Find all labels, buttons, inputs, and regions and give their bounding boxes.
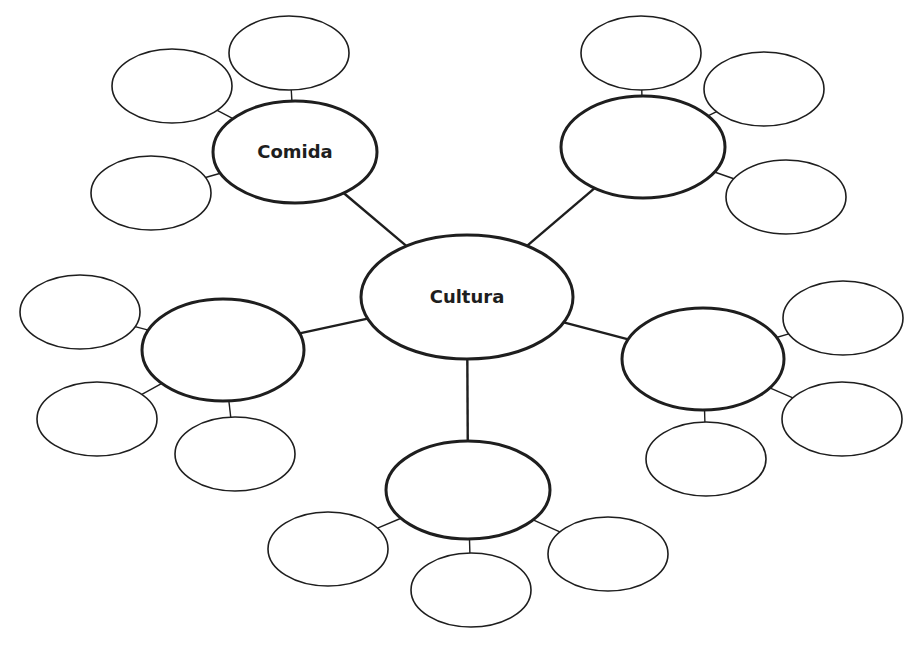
leaf-node[interactable] (175, 417, 295, 491)
leaf-connector-line (776, 334, 788, 338)
leaf-connector-line (378, 518, 401, 528)
leaf-node[interactable] (20, 275, 140, 349)
branch-node[interactable] (142, 299, 304, 401)
leaf-node[interactable] (112, 49, 232, 123)
leaf-ellipse[interactable] (726, 160, 846, 234)
center-label: Cultura (430, 286, 505, 307)
leaf-node[interactable] (548, 517, 668, 591)
branch-label: Comida (257, 141, 333, 162)
branch-node[interactable] (622, 308, 784, 410)
leaf-node[interactable] (704, 52, 824, 126)
leaf-ellipse[interactable] (411, 553, 531, 627)
leaf-node[interactable] (782, 382, 902, 456)
leaf-ellipse[interactable] (268, 512, 388, 586)
leaf-connector-line (135, 327, 148, 331)
leaf-node[interactable] (581, 16, 701, 90)
mind-map-diagram: Comida Cultura (0, 0, 917, 649)
leaf-ellipse[interactable] (175, 417, 295, 491)
leaf-node[interactable] (646, 422, 766, 496)
connector-line (344, 193, 407, 246)
leaf-node[interactable] (726, 160, 846, 234)
connector-line (300, 319, 368, 334)
branch-node[interactable] (561, 96, 725, 198)
leaf-node[interactable] (37, 382, 157, 456)
leaf-ellipse[interactable] (783, 281, 903, 355)
leaf-connector-line (205, 173, 220, 177)
leaf-ellipse[interactable] (229, 16, 349, 90)
leaf-node[interactable] (783, 281, 903, 355)
leaf-ellipse[interactable] (704, 52, 824, 126)
branch-ellipse[interactable] (622, 308, 784, 410)
leaf-ellipse[interactable] (112, 49, 232, 123)
leaf-node[interactable] (411, 553, 531, 627)
connector-line (527, 188, 595, 246)
leaf-connector-line (714, 172, 733, 179)
leaf-ellipse[interactable] (548, 517, 668, 591)
leaf-connector-line (229, 401, 231, 417)
leaf-ellipse[interactable] (37, 382, 157, 456)
leaf-connector-line (217, 110, 233, 118)
branch-ellipse[interactable] (561, 96, 725, 198)
leaf-connector-line (291, 90, 292, 101)
leaf-node[interactable] (91, 156, 211, 230)
leaf-connector-line (142, 383, 162, 394)
leaf-node[interactable] (268, 512, 388, 586)
branch-ellipse[interactable] (142, 299, 304, 401)
leaf-ellipse[interactable] (581, 16, 701, 90)
leaf-connector-line (533, 520, 560, 532)
branch-node-comida[interactable]: Comida (213, 101, 377, 203)
leaf-ellipse[interactable] (646, 422, 766, 496)
leaf-connector-line (770, 388, 793, 398)
branch-ellipse[interactable] (386, 441, 550, 539)
connector-line (564, 322, 629, 339)
branch-node[interactable] (386, 441, 550, 539)
center-node: Cultura (361, 235, 573, 359)
leaf-ellipse[interactable] (20, 275, 140, 349)
leaf-node[interactable] (229, 16, 349, 90)
leaf-ellipse[interactable] (91, 156, 211, 230)
leaf-ellipse[interactable] (782, 382, 902, 456)
